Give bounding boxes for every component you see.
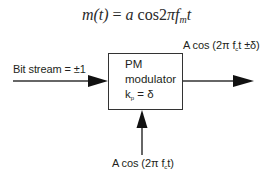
carrier-arrow bbox=[137, 110, 148, 155]
carrier-label-suffix: t) bbox=[167, 157, 174, 169]
output-arrow bbox=[183, 75, 254, 87]
output-label-suffix: t ±δ) bbox=[238, 39, 259, 51]
input-arrow bbox=[13, 75, 108, 87]
carrier-label-prefix: A cos (2π f bbox=[112, 157, 164, 169]
carrier-label: A cos (2π fct) bbox=[112, 157, 174, 174]
gain-value: = δ bbox=[134, 88, 154, 100]
pm-modulator-block: PM modulator kp = δ bbox=[108, 53, 183, 110]
block-gain: kp = δ bbox=[125, 87, 154, 105]
output-label-prefix: A cos (2π f bbox=[183, 39, 235, 51]
block-title: PM bbox=[125, 57, 142, 71]
output-label: A cos (2π fct ±δ) bbox=[183, 39, 260, 56]
input-label: Bit stream = ±1 bbox=[13, 63, 86, 76]
block-subtitle: modulator bbox=[125, 72, 176, 86]
